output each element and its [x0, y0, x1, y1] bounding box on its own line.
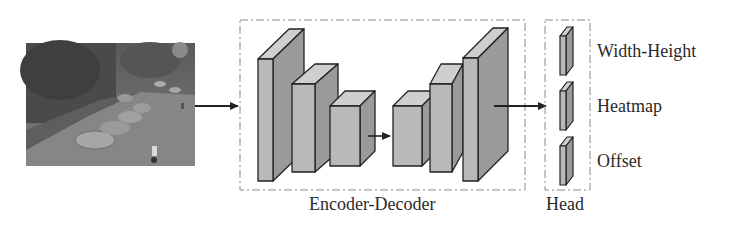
decoder-block-2: [430, 64, 463, 172]
encoder-decoder-label: Encoder-Decoder: [309, 195, 436, 213]
input-image: [20, 40, 195, 166]
head-label: Head: [546, 195, 584, 213]
head-block-width-height: [560, 27, 573, 75]
decoder-block-3: [463, 28, 508, 181]
head-block-offset: [560, 137, 573, 185]
head-block-heatmap: [560, 82, 573, 130]
head-output-label-offset: Offset: [597, 152, 642, 170]
head-output-label-width-height: Width-Height: [597, 42, 696, 60]
encoder-block-3: [330, 91, 375, 166]
head-output-label-heatmap: Heatmap: [597, 97, 662, 115]
